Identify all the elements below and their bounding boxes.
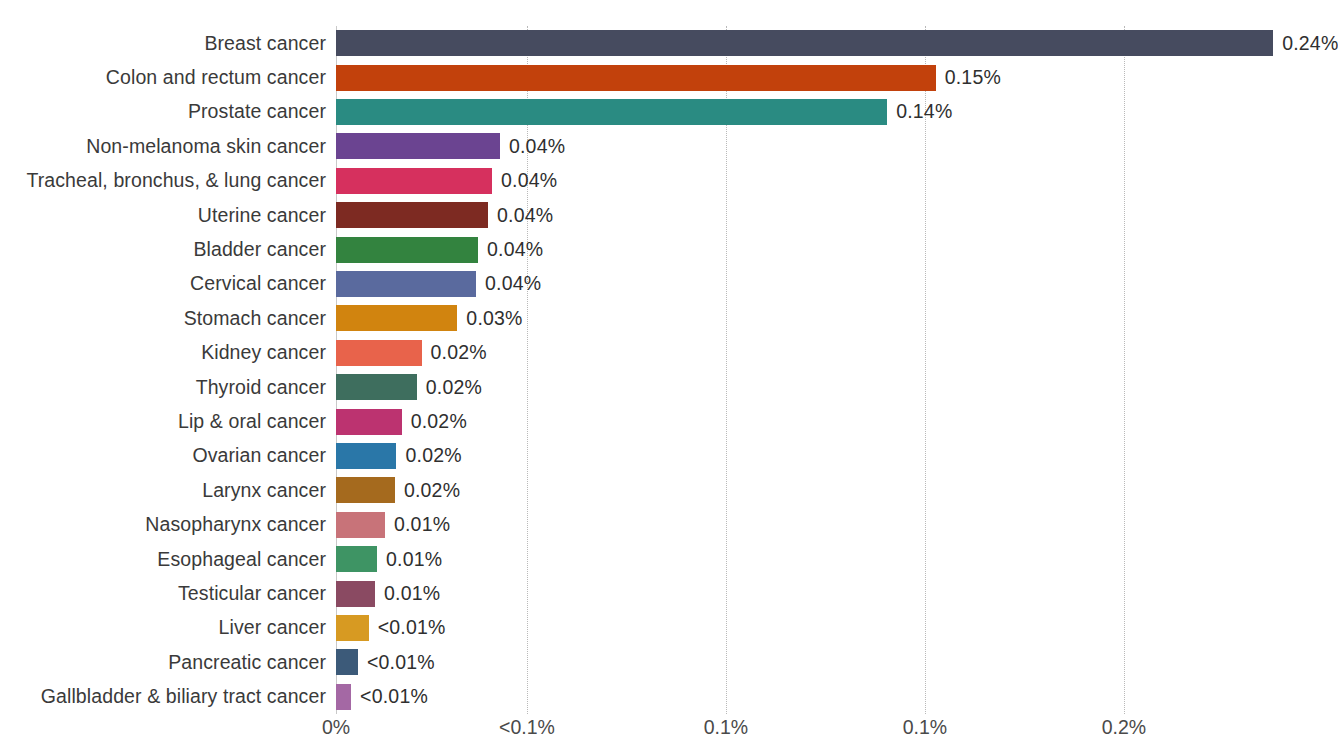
bar-value-label: 0.04% — [487, 238, 543, 261]
bar-row: 0.04% — [336, 232, 1305, 266]
bar — [336, 374, 417, 400]
bar-row: 0.02% — [336, 370, 1305, 404]
category-label: Lip & oral cancer — [178, 404, 326, 438]
bar — [336, 477, 395, 503]
bar — [336, 237, 478, 263]
category-label: Colon and rectum cancer — [106, 60, 326, 94]
category-label: Tracheal, bronchus, & lung cancer — [26, 164, 326, 198]
bar — [336, 202, 488, 228]
bar-row: 0.04% — [336, 129, 1305, 163]
bar-rows: 0.24%0.15%0.14%0.04%0.04%0.04%0.04%0.04%… — [336, 26, 1305, 714]
category-label: Esophageal cancer — [157, 542, 326, 576]
bar-value-label: 0.02% — [411, 410, 467, 433]
bar — [336, 443, 396, 469]
bar-row: 0.02% — [336, 439, 1305, 473]
x-tick-label: 0.1% — [903, 716, 947, 739]
bar-row: <0.01% — [336, 680, 1305, 714]
bar — [336, 649, 358, 675]
bar-value-label: 0.04% — [509, 135, 565, 158]
bar-value-label: 0.03% — [466, 307, 522, 330]
bar-value-label: 0.01% — [394, 513, 450, 536]
bar-row: 0.01% — [336, 508, 1305, 542]
category-label: Breast cancer — [204, 26, 326, 60]
bar-value-label: 0.04% — [497, 204, 553, 227]
category-label: Bladder cancer — [193, 232, 326, 266]
x-tick-label: <0.1% — [499, 716, 555, 739]
x-axis: 0%<0.1%0.1%0.1%0.2% — [336, 714, 1305, 743]
x-tick-label: 0.2% — [1102, 716, 1146, 739]
category-label: Prostate cancer — [188, 95, 326, 129]
category-label: Liver cancer — [219, 611, 326, 645]
category-label: Uterine cancer — [198, 198, 326, 232]
bar-value-label: 0.02% — [426, 376, 482, 399]
category-label: Nasopharynx cancer — [145, 508, 326, 542]
bar — [336, 684, 351, 710]
bar-row: 0.02% — [336, 336, 1305, 370]
bar-row: <0.01% — [336, 611, 1305, 645]
bar-row: 0.02% — [336, 404, 1305, 438]
category-label: Larynx cancer — [202, 473, 326, 507]
bar — [336, 30, 1273, 56]
category-label: Gallbladder & biliary tract cancer — [41, 680, 326, 714]
bar — [336, 271, 476, 297]
bar-row: 0.01% — [336, 576, 1305, 610]
bar — [336, 581, 375, 607]
bar-value-label: 0.24% — [1282, 32, 1338, 55]
bar-value-label: 0.14% — [896, 100, 952, 123]
category-label: Testicular cancer — [178, 576, 326, 610]
category-label: Stomach cancer — [184, 301, 326, 335]
x-tick-label: 0.1% — [704, 716, 748, 739]
category-label: Ovarian cancer — [192, 439, 326, 473]
bar-value-label: 0.04% — [501, 169, 557, 192]
bar-value-label: <0.01% — [378, 616, 446, 639]
category-label: Pancreatic cancer — [168, 645, 326, 679]
bar-value-label: <0.01% — [360, 685, 428, 708]
bar-row: 0.14% — [336, 95, 1305, 129]
bar-row: 0.03% — [336, 301, 1305, 335]
bar-row: 0.04% — [336, 267, 1305, 301]
bar — [336, 305, 457, 331]
bar — [336, 65, 936, 91]
bar-row: 0.04% — [336, 164, 1305, 198]
bar — [336, 512, 385, 538]
bar — [336, 409, 402, 435]
bar-value-label: 0.01% — [386, 548, 442, 571]
bar — [336, 546, 377, 572]
bar-row: 0.24% — [336, 26, 1305, 60]
bar-value-label: 0.02% — [431, 341, 487, 364]
bar — [336, 615, 369, 641]
bar-row: 0.01% — [336, 542, 1305, 576]
bar — [336, 340, 422, 366]
x-tick-label: 0% — [322, 716, 350, 739]
bar — [336, 99, 887, 125]
bar-value-label: 0.15% — [945, 66, 1001, 89]
bar-row: 0.02% — [336, 473, 1305, 507]
bar-value-label: 0.04% — [485, 272, 541, 295]
bar-row: 0.04% — [336, 198, 1305, 232]
bar-value-label: 0.01% — [384, 582, 440, 605]
category-label: Thyroid cancer — [196, 370, 326, 404]
bar-row: <0.01% — [336, 645, 1305, 679]
bar-value-label: 0.02% — [404, 479, 460, 502]
category-label: Non-melanoma skin cancer — [86, 129, 326, 163]
bar — [336, 133, 500, 159]
bar-row: 0.15% — [336, 60, 1305, 94]
bar — [336, 168, 492, 194]
category-label: Kidney cancer — [201, 336, 326, 370]
category-axis: Breast cancerColon and rectum cancerPros… — [0, 26, 326, 714]
bar-value-label: 0.02% — [405, 444, 461, 467]
bar-value-label: <0.01% — [367, 651, 435, 674]
category-label: Cervical cancer — [190, 267, 326, 301]
plot-area: 0.24%0.15%0.14%0.04%0.04%0.04%0.04%0.04%… — [336, 26, 1305, 714]
